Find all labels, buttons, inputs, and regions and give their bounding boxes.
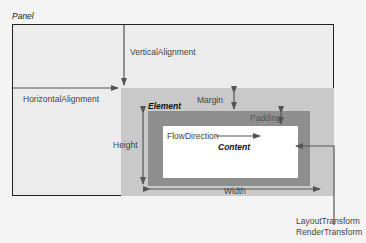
flow-direction-label: FlowDirection [167,131,219,141]
padding-label: Padding [250,113,281,123]
arrows-overlay [0,0,366,243]
height-label: Height [113,140,138,150]
layout-transform-label: LayoutTransform [296,216,360,226]
content-label: Content [218,142,250,152]
render-transform-label: RenderTransform [296,227,362,237]
horizontal-alignment-label: HorizontalAlignment [23,94,99,104]
width-label: Width [224,186,246,196]
element-label: Element [148,101,181,111]
transform-connector-icon [296,146,334,225]
margin-label: Margin [197,95,223,105]
vertical-alignment-label: VerticalAlignment [130,47,196,57]
